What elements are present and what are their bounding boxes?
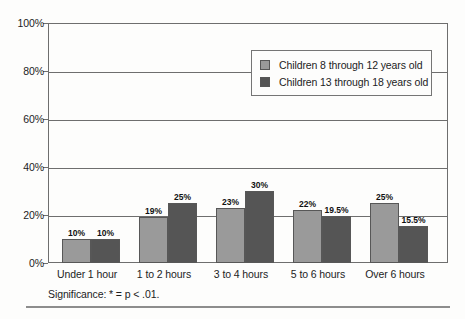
bar-series-b-1-to-2-hours[interactable]: 25% bbox=[168, 203, 197, 263]
bar-series-b-under-1-hour[interactable]: 10% bbox=[91, 239, 120, 263]
bar-group-1-to-2-hours: 19% 25% bbox=[139, 23, 197, 263]
x-axis-label-over-6-hours: Over 6 hours bbox=[355, 268, 435, 280]
bar-series-a-1-to-2-hours[interactable]: 19% bbox=[139, 217, 168, 263]
y-axis-label-100: 100% bbox=[0, 18, 44, 28]
legend-label: Children 13 through 18 years old bbox=[279, 76, 428, 88]
bar-value-label: 30% bbox=[251, 181, 268, 190]
bar-value-label: 10% bbox=[68, 229, 85, 238]
x-axis-label-under-1-hour: Under 1 hour bbox=[47, 268, 127, 280]
bar-value-label: 25% bbox=[174, 193, 191, 202]
bar-value-label: 10% bbox=[97, 229, 114, 238]
bar-series-a-3-to-4-hours[interactable]: 23% bbox=[216, 208, 245, 263]
figure: 100% 80% 60% 40% 20% 0% 10% 10% 19% 25% bbox=[0, 0, 465, 319]
bar-value-label: 15.5% bbox=[401, 216, 425, 225]
bar-value-label: 23% bbox=[222, 198, 239, 207]
bar-value-label: 19% bbox=[145, 207, 162, 216]
bar-series-a-5-to-6-hours[interactable]: 22% bbox=[293, 210, 322, 263]
legend-swatch-icon-series-a bbox=[260, 60, 270, 70]
y-axis-label-20: 20% bbox=[0, 210, 44, 220]
bar-value-label: 19.5% bbox=[324, 206, 348, 215]
legend-swatch-icon-series-b bbox=[260, 77, 270, 87]
bar-series-a-over-6-hours[interactable]: 25% bbox=[370, 203, 399, 263]
bar-value-label: 22% bbox=[299, 200, 316, 209]
bar-series-b-5-to-6-hours[interactable]: 19.5% bbox=[322, 216, 351, 263]
x-axis-label-1-to-2-hours: 1 to 2 hours bbox=[124, 268, 204, 280]
legend-label: Children 8 through 12 years old bbox=[279, 59, 422, 71]
legend-entry-children-8-through-12: Children 8 through 12 years old bbox=[252, 56, 431, 73]
bar-group-under-1-hour: 10% 10% bbox=[62, 23, 120, 263]
legend-entry-children-13-through-18: Children 13 through 18 years old bbox=[252, 73, 431, 90]
y-axis-label-0: 0% bbox=[0, 258, 44, 268]
x-axis-label-3-to-4-hours: 3 to 4 hours bbox=[201, 268, 281, 280]
x-axis-label-5-to-6-hours: 5 to 6 hours bbox=[278, 268, 358, 280]
y-axis-label-60: 60% bbox=[0, 114, 44, 124]
y-axis-label-40: 40% bbox=[0, 162, 44, 172]
bottom-divider bbox=[26, 306, 450, 308]
significance-footnote: Significance: * = p < .01. bbox=[48, 288, 159, 300]
legend: Children 8 through 12 years old Children… bbox=[251, 50, 432, 96]
y-axis-label-80: 80% bbox=[0, 66, 44, 76]
bar-series-a-under-1-hour[interactable]: 10% bbox=[62, 239, 91, 263]
bar-value-label: 25% bbox=[376, 193, 393, 202]
bar-series-b-over-6-hours[interactable]: 15.5% bbox=[399, 226, 428, 263]
bar-series-b-3-to-4-hours[interactable]: 30% bbox=[245, 191, 274, 263]
